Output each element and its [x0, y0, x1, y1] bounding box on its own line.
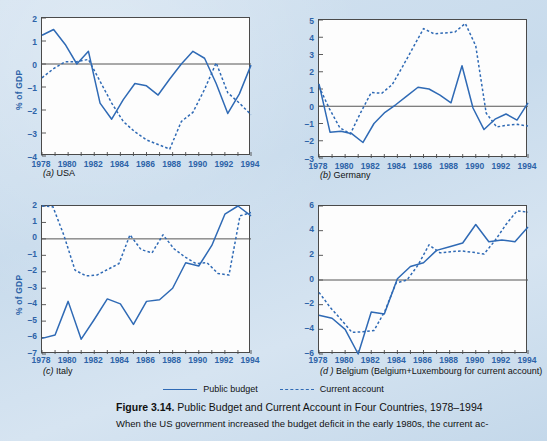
x-tick-label: 1984	[383, 161, 409, 171]
panel-caption-germany: (b) Germany	[320, 170, 371, 180]
y-tick-label: 1	[292, 85, 314, 95]
y-tick-label: –2	[292, 136, 314, 146]
y-tick-label: 2	[292, 67, 314, 77]
series-lines-usa	[42, 18, 251, 156]
y-tick-label: –1	[15, 249, 37, 259]
x-tick-label: 1986	[133, 355, 159, 365]
x-tick-label: 1992	[488, 161, 514, 171]
y-tick-label: 0	[15, 60, 37, 70]
x-tick-label: 1988	[159, 355, 185, 365]
x-tick-label: 1990	[462, 161, 488, 171]
y-tick-label: –6	[15, 331, 37, 341]
x-tick-label: 1984	[106, 159, 132, 169]
series-current-account	[42, 59, 251, 149]
y-tick-label: –5	[15, 315, 37, 325]
y-tick-label: 1	[15, 37, 37, 47]
x-tick-label: 1988	[159, 159, 185, 169]
series-public-budget	[319, 66, 528, 143]
x-tick-label: 1986	[133, 159, 159, 169]
y-tick-label: 2	[15, 200, 37, 210]
figure-number: Figure 3.14.	[116, 401, 174, 413]
y-tick-label: 2	[292, 249, 314, 259]
x-tick-label: 1978	[28, 355, 54, 365]
x-tick-label: 1994	[237, 355, 263, 365]
series-lines-germany	[319, 20, 528, 158]
panel-caption-belgium: (d ) Belgium (Belgium+Luxembourg for cur…	[320, 366, 542, 376]
y-tick-label: –1	[292, 119, 314, 129]
x-tick-label: 1986	[410, 355, 436, 365]
x-tick-label: 1988	[436, 161, 462, 171]
y-tick-label: 3	[292, 50, 314, 60]
x-tick-label: 1992	[488, 355, 514, 365]
chart-legend: Public budget Current account	[0, 381, 547, 397]
x-tick-label: 1980	[54, 355, 80, 365]
x-tick-label: 1994	[514, 161, 540, 171]
y-tick-label: 0	[15, 232, 37, 242]
y-tick-label: –2	[292, 298, 314, 308]
x-tick-label: 1978	[305, 355, 331, 365]
figure-title-line: Figure 3.14. Public Budget and Current A…	[116, 400, 536, 414]
y-tick-label: –3	[15, 129, 37, 139]
series-lines-italy	[42, 206, 251, 354]
series-current-account	[319, 23, 528, 133]
x-tick-label: 1982	[80, 159, 106, 169]
x-tick-label: 1992	[211, 159, 237, 169]
series-public-budget	[319, 225, 528, 355]
figure-title-text: Public Budget and Current Account in Fou…	[177, 401, 482, 413]
plot-area-germany	[318, 19, 527, 157]
series-public-budget	[42, 30, 251, 120]
y-tick-label: 4	[292, 224, 314, 234]
panel-caption-italy: (c) Italy	[43, 366, 73, 376]
y-tick-label: 1	[15, 216, 37, 226]
figure-body-text: When the US government increased the bud…	[116, 417, 536, 431]
x-tick-label: 1982	[357, 355, 383, 365]
y-tick-label: 0	[292, 274, 314, 284]
panel-caption-usa: (a) USA	[43, 168, 75, 178]
y-tick-label: 0	[292, 102, 314, 112]
x-tick-label: 1994	[514, 355, 540, 365]
legend-label-current-account: Current account	[320, 384, 384, 394]
legend-item-public-budget: Public budget	[163, 384, 258, 394]
series-current-account	[319, 211, 528, 332]
y-tick-label: 6	[292, 200, 314, 210]
y-tick-label: –3	[15, 282, 37, 292]
plot-area-belgium	[318, 205, 527, 353]
x-tick-label: 1986	[410, 161, 436, 171]
x-tick-label: 1984	[383, 355, 409, 365]
solid-line-icon	[163, 389, 197, 390]
plot-area-italy	[41, 205, 250, 353]
x-tick-label: 1990	[462, 355, 488, 365]
dashed-line-icon	[280, 389, 314, 390]
y-axis-label-italy: % of GDP	[14, 275, 24, 315]
y-tick-label: 2	[15, 14, 37, 24]
figure-page: % of GDP –4–3–2–1012 1978198019821984198…	[0, 0, 547, 441]
series-public-budget	[42, 206, 251, 339]
x-tick-label: 1984	[106, 355, 132, 365]
legend-label-public-budget: Public budget	[203, 384, 258, 394]
y-tick-label: 4	[292, 33, 314, 43]
legend-item-current-account: Current account	[280, 384, 384, 394]
x-tick-label: 1994	[237, 159, 263, 169]
x-tick-label: 1992	[211, 355, 237, 365]
y-tick-label: –1	[15, 83, 37, 93]
x-tick-label: 1980	[331, 355, 357, 365]
x-tick-label: 1982	[80, 355, 106, 365]
y-tick-label: 5	[292, 16, 314, 26]
x-tick-label: 1990	[185, 355, 211, 365]
y-tick-label: –2	[15, 106, 37, 116]
plot-area-usa	[41, 17, 250, 155]
y-tick-label: –4	[292, 323, 314, 333]
x-tick-label: 1990	[185, 159, 211, 169]
figure-caption: Figure 3.14. Public Budget and Current A…	[116, 400, 536, 431]
series-current-account	[42, 206, 251, 276]
y-tick-label: –2	[15, 265, 37, 275]
x-tick-label: 1988	[436, 355, 462, 365]
y-tick-label: –4	[15, 298, 37, 308]
chart-grid: % of GDP –4–3–2–1012 1978198019821984198…	[0, 0, 547, 378]
series-lines-belgium	[319, 206, 528, 354]
